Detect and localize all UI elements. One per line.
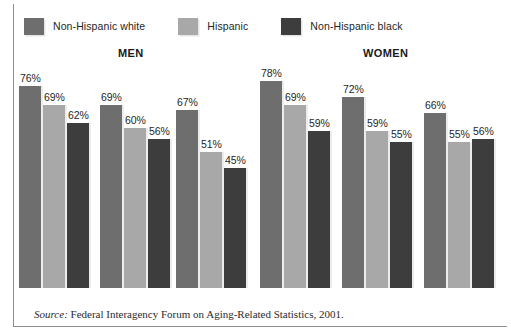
chart-legend: Non-Hispanic whiteHispanicNon-Hispanic b…	[24, 16, 403, 36]
legend-item-hispanic: Hispanic	[178, 16, 248, 36]
bar-slot: 56%	[472, 62, 494, 288]
legend-label-non-hispanic-white: Non-Hispanic white	[53, 20, 145, 32]
bar-women-3-hispanic	[448, 142, 470, 288]
panel-title-men: MEN	[118, 47, 144, 59]
bar-value-label: 76%	[20, 72, 41, 84]
bar-slot: 78%	[260, 62, 282, 288]
bar-slot: 62%	[67, 62, 89, 288]
legend-label-non-hispanic-black: Non-Hispanic black	[310, 20, 402, 32]
legend-item-non-hispanic-white: Non-Hispanic white	[24, 16, 145, 36]
bars-container: 76%69%62%	[19, 62, 89, 288]
bar-value-label: 55%	[449, 128, 470, 140]
bar-women-3-non-hispanic-black	[472, 139, 494, 288]
legend-label-hispanic: Hispanic	[207, 20, 248, 32]
source-text: Federal Interagency Forum on Aging-Relat…	[68, 308, 344, 320]
bar-value-label: 66%	[425, 99, 446, 111]
bar-women-1-non-hispanic-white	[260, 81, 282, 288]
bar-men-3-non-hispanic-black	[224, 168, 246, 288]
bars-container: 67%51%45%	[176, 62, 246, 288]
bar-women-1-hispanic	[284, 105, 306, 288]
bar-slot: 76%	[19, 62, 41, 288]
bar-value-label: 51%	[201, 138, 222, 150]
bar-value-label: 78%	[261, 67, 282, 79]
bar-slot: 69%	[284, 62, 306, 288]
bars-container: 69%60%56%	[100, 62, 170, 288]
bar-slot: 51%	[200, 62, 222, 288]
bar-women-3-non-hispanic-white	[424, 113, 446, 288]
bar-men-1-non-hispanic-black	[67, 123, 89, 288]
bar-value-label: 67%	[177, 96, 198, 108]
bar-women-2-non-hispanic-white	[342, 97, 364, 288]
bar-value-label: 56%	[473, 125, 494, 137]
chart-figure: Non-Hispanic whiteHispanicNon-Hispanic b…	[0, 0, 511, 331]
bar-men-2-non-hispanic-white	[100, 105, 122, 288]
bar-slot: 55%	[390, 62, 412, 288]
source-note: Source: Federal Interagency Forum on Agi…	[34, 308, 344, 320]
bars-container: 72%59%55%	[342, 62, 412, 288]
bar-women-1-non-hispanic-black	[308, 131, 330, 288]
bar-value-label: 60%	[125, 114, 146, 126]
bar-value-label: 69%	[101, 91, 122, 103]
bar-value-label: 59%	[367, 117, 388, 129]
bar-slot: 67%	[176, 62, 198, 288]
bar-value-label: 45%	[225, 154, 246, 166]
bar-value-label: 59%	[309, 117, 330, 129]
legend-swatch-non-hispanic-black	[281, 18, 301, 35]
bar-slot: 66%	[424, 62, 446, 288]
bar-slot: 59%	[308, 62, 330, 288]
bars-container: 78%69%59%	[260, 62, 330, 288]
bar-value-label: 62%	[68, 109, 89, 121]
bar-men-1-hispanic	[43, 105, 65, 288]
bar-men-1-non-hispanic-white	[19, 86, 41, 288]
bar-slot: 45%	[224, 62, 246, 288]
legend-item-non-hispanic-black: Non-Hispanic black	[281, 16, 402, 36]
bars-container: 66%55%56%	[424, 62, 494, 288]
frame-left-rule	[13, 4, 14, 326]
bar-slot: 69%	[43, 62, 65, 288]
panel-title-women: WOMEN	[363, 47, 408, 59]
bar-value-label: 72%	[343, 83, 364, 95]
legend-swatch-non-hispanic-white	[24, 18, 44, 35]
bar-women-2-hispanic	[366, 131, 388, 288]
bar-men-3-hispanic	[200, 152, 222, 288]
bar-slot: 69%	[100, 62, 122, 288]
bar-value-label: 56%	[149, 125, 170, 137]
bar-slot: 59%	[366, 62, 388, 288]
source-label: Source:	[34, 308, 68, 320]
bar-value-label: 55%	[391, 128, 412, 140]
bar-men-2-hispanic	[124, 128, 146, 288]
bar-men-3-non-hispanic-white	[176, 110, 198, 288]
plot-panel-men: 76%69%62%65 to 7469%60%56%75 to 8467%51%…	[19, 62, 229, 288]
bar-slot: 72%	[342, 62, 364, 288]
bar-slot: 60%	[124, 62, 146, 288]
frame-bottom-rule	[13, 326, 507, 327]
bar-slot: 56%	[148, 62, 170, 288]
bar-slot: 55%	[448, 62, 470, 288]
legend-swatch-hispanic	[178, 18, 198, 35]
bar-value-label: 69%	[44, 91, 65, 103]
bar-women-2-non-hispanic-black	[390, 142, 412, 288]
bar-value-label: 69%	[285, 91, 306, 103]
plot-panel-women: 78%69%59%65 and over72%59%55%65 and over…	[260, 62, 492, 288]
bar-men-2-non-hispanic-black	[148, 139, 170, 288]
